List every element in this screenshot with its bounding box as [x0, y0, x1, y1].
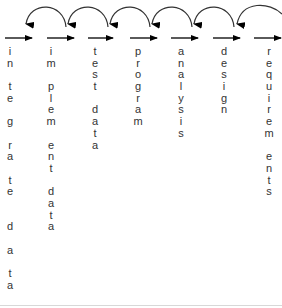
- letter: p: [131, 46, 145, 58]
- letter: g: [131, 81, 145, 93]
- stage-label-test-data: test data: [88, 46, 102, 151]
- letter: t: [3, 81, 17, 93]
- letter: n: [217, 104, 231, 116]
- feedback-arcs: [26, 5, 282, 27]
- stage-label-integrate-data: in te g ra te d a ta: [3, 46, 17, 291]
- letter: a: [44, 221, 58, 233]
- feedback-arc-4: [152, 7, 192, 27]
- letter: n: [262, 163, 276, 175]
- letter: s: [174, 128, 188, 140]
- letter: [44, 128, 58, 140]
- letter: t: [3, 268, 17, 280]
- letter: [3, 128, 17, 140]
- letter: t: [88, 128, 102, 140]
- letter: t: [88, 46, 102, 58]
- letter: a: [174, 46, 188, 58]
- letter: p: [44, 81, 58, 93]
- letter: t: [88, 81, 102, 93]
- letter: i: [44, 46, 58, 58]
- letter: s: [262, 186, 276, 198]
- letter: [3, 198, 17, 210]
- letter: t: [44, 163, 58, 175]
- letter: l: [174, 81, 188, 93]
- letter: m: [131, 116, 145, 128]
- stage-label-requirements: requirem ents: [262, 46, 276, 198]
- feedback-arc-5: [194, 7, 234, 27]
- stage-label-implement-data: im plem ent data: [44, 46, 58, 233]
- letter: [3, 163, 17, 175]
- feedback-arc-1: [26, 7, 66, 27]
- stage-label-program: program: [131, 46, 145, 128]
- letter: m: [262, 128, 276, 140]
- letter: r: [262, 46, 276, 58]
- letter: a: [3, 280, 17, 292]
- feedback-arc-6: [237, 5, 282, 24]
- stage-label-analysis: analysis: [174, 46, 188, 140]
- letter: u: [262, 81, 276, 93]
- feedback-arc-2: [68, 7, 108, 27]
- letter: i: [217, 81, 231, 93]
- letter: a: [88, 140, 102, 152]
- letter: a: [44, 198, 58, 210]
- letter: d: [217, 46, 231, 58]
- bottom-divider: [0, 305, 282, 306]
- stage-label-design: design: [217, 46, 231, 116]
- letter: i: [3, 46, 17, 58]
- feedback-arc-3: [110, 7, 150, 27]
- letter: [3, 233, 17, 245]
